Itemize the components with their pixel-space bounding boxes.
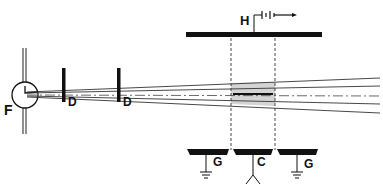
- battery-icon: [262, 11, 293, 19]
- ground-plate-left: [187, 149, 229, 155]
- ground-icon: [200, 155, 212, 178]
- label-top-plate: H: [240, 14, 249, 27]
- top-plate: [186, 32, 322, 37]
- label-ground-left: G: [213, 156, 222, 168]
- beam-axis: [27, 95, 380, 96]
- label-source: F: [4, 103, 13, 117]
- label-collector: C: [257, 156, 266, 168]
- label-slit-1: D: [68, 96, 77, 108]
- arrow-right-icon: [292, 13, 297, 17]
- ground-icon: [291, 155, 303, 178]
- ground-plate-right: [277, 149, 318, 155]
- collector-plate: [233, 149, 273, 155]
- top-plate-wire: [254, 15, 262, 32]
- slit-2: [117, 68, 121, 102]
- label-slit-2: D: [123, 96, 132, 108]
- slit-1: [62, 68, 66, 102]
- ion-beam-diagram: [0, 0, 383, 190]
- label-ground-right: G: [304, 158, 313, 170]
